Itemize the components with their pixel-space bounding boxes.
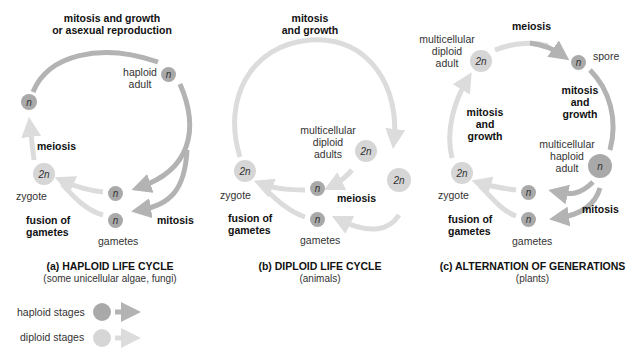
label-line: diploid	[300, 136, 356, 148]
gamete-cell-2: n	[521, 212, 536, 227]
zygote-label: zygote	[16, 190, 47, 202]
legend-haploid-label: haploid stages	[17, 306, 85, 318]
legend-diploid-label: diploid stages	[20, 331, 84, 343]
label-line: and	[555, 96, 605, 108]
label-line: growth	[555, 108, 605, 120]
label-line: and growth	[275, 24, 345, 36]
label-line: diploid	[418, 45, 476, 57]
mitosis-label: mitosis	[157, 214, 194, 226]
label-line: growth	[460, 130, 510, 142]
legend-diploid-swatch	[93, 329, 111, 347]
panel-a-title: (a) HAPLOID LIFE CYCLE	[20, 260, 200, 272]
label-line: fusion of	[26, 214, 70, 226]
right-process-label: mitosis and growth	[555, 84, 605, 120]
label-line: multicellular	[300, 124, 356, 136]
label-line: adults	[300, 148, 356, 160]
zygote-cell: 2n	[234, 160, 256, 182]
meiosis-label: meiosis	[37, 140, 76, 152]
gametes-label: gametes	[98, 235, 138, 247]
legend-arrows	[115, 312, 132, 338]
panel-c-subtitle: (plants)	[430, 273, 635, 284]
label-line: adult	[418, 57, 476, 69]
label-line: or asexual reproduction	[52, 24, 172, 36]
label-line: mitosis and growth	[52, 12, 172, 24]
diploid-adults-label: multicellular diploid adults	[300, 124, 356, 160]
gamete-cell-2: n	[310, 212, 325, 227]
spore-label: spore	[593, 50, 619, 62]
panel-b-subtitle: (animals)	[230, 273, 410, 284]
gamete-cell-2: n	[108, 213, 123, 228]
panel-c-title: (c) ALTERNATION OF GENERATIONS	[430, 260, 635, 272]
haploid-adult-label: haploid adult	[118, 66, 162, 90]
meiosis-label: meiosis	[337, 192, 376, 204]
label-line: haploid	[538, 150, 596, 162]
label-line: multicellular	[538, 138, 596, 150]
fusion-label: fusion of gametes	[26, 214, 70, 238]
gamete-cell-1: n	[310, 181, 325, 196]
label-line: gametes	[228, 224, 272, 236]
label-line: gametes	[26, 226, 70, 238]
label-line: fusion of	[448, 213, 492, 225]
diploid-adult-label: multicellular diploid adult	[418, 33, 476, 69]
panel-b-title: (b) DIPLOID LIFE CYCLE	[230, 260, 410, 272]
label-line: gametes	[448, 225, 492, 237]
diploid-adult-cell: 2n	[470, 50, 492, 72]
label-line: multicellular	[418, 33, 476, 45]
zygote-label: zygote	[438, 189, 469, 201]
label-line: fusion of	[228, 212, 272, 224]
diploid-adult-cell-1: 2n	[355, 140, 377, 162]
gamete-cell-1: n	[108, 186, 123, 201]
process-label-top: mitosis and growth	[275, 12, 345, 36]
label-line: mitosis	[555, 84, 605, 96]
panel-a-subtitle: (some unicellular algae, fungi)	[20, 273, 200, 284]
gametes-label: gametes	[300, 234, 340, 246]
spore-cell: n	[571, 55, 586, 70]
zygote-cell: 2n	[33, 163, 55, 185]
fusion-label: fusion of gametes	[448, 213, 492, 237]
label-line: and	[460, 118, 510, 130]
zygote-label: zygote	[220, 189, 251, 201]
meiosis-product-cell: n	[21, 94, 37, 110]
haploid-adult-cell: n	[588, 154, 612, 178]
mitosis-label: mitosis	[582, 203, 619, 215]
meiosis-label: meiosis	[512, 20, 551, 32]
left-process-label: mitosis and growth	[460, 106, 510, 142]
fusion-label: fusion of gametes	[228, 212, 272, 236]
diploid-adult-cell-2: 2n	[387, 168, 411, 192]
legend-haploid-swatch	[93, 303, 111, 321]
process-label-top: mitosis and growth or asexual reproducti…	[52, 12, 172, 36]
gametes-label: gametes	[512, 235, 552, 247]
zygote-cell: 2n	[451, 162, 473, 184]
label-line: adult	[118, 78, 162, 90]
label-line: haploid	[118, 66, 162, 78]
label-line: mitosis	[275, 12, 345, 24]
gamete-cell-1: n	[521, 185, 536, 200]
label-line: mitosis	[460, 106, 510, 118]
haploid-adult-cell: n	[161, 67, 176, 82]
